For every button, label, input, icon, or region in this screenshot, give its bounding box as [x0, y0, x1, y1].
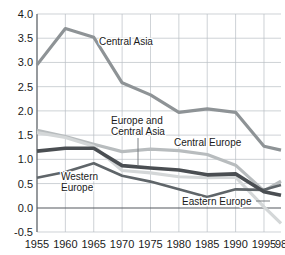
y-axis-tick-label: 0.0 [18, 202, 33, 214]
y-axis-tick-label: 0.5 [18, 178, 33, 190]
y-axis-tick-label: 4.0 [18, 8, 33, 20]
y-axis-tick-label: 1.5 [18, 129, 33, 141]
annotation-eastern-europe-text: Eastern Europe [182, 196, 252, 207]
y-axis-tick-label: 1.0 [18, 153, 33, 165]
y-axis-tick-label: 2.0 [18, 105, 33, 117]
annotation-europe-and-central-asia-line2: Central Asia [111, 126, 165, 137]
annotation-europe-and-central-asia: Europe and Central Asia [111, 115, 165, 166]
x-axis-tick-label: 98 [275, 238, 285, 250]
x-axis-tick-labels: 19551960196519701975198019851990199598 [25, 238, 285, 250]
annotation-western-europe-line1: Western [61, 171, 98, 182]
chart-canvas: 4.03.53.02.52.01.51.00.50.0-0.5 19551960… [0, 0, 285, 255]
y-axis-tick-label: 3.5 [18, 32, 33, 44]
annotation-central-europe-text: Central Europe [174, 137, 242, 148]
annotation-central-europe: Central Europe [174, 137, 242, 148]
y-axis-tick-label: 2.5 [18, 81, 33, 93]
x-axis-tick-label: 1995 [252, 238, 276, 250]
annotation-western-europe-line2: Europe [61, 182, 94, 193]
x-axis-tick-label: 1960 [53, 238, 77, 250]
y-axis-tick-label: -0.5 [14, 226, 33, 238]
annotation-europe-and-central-asia-line1: Europe and [111, 115, 163, 126]
y-axis-tick-labels: 4.03.53.02.52.01.51.00.50.0-0.5 [14, 8, 33, 238]
annotation-central-asia: Central Asia [99, 36, 153, 47]
x-axis-tick-label: 1970 [110, 238, 134, 250]
x-axis-tick-label: 1955 [25, 238, 49, 250]
y-axis-tick-label: 3.0 [18, 56, 33, 68]
x-axis-tick-label: 1990 [223, 238, 247, 250]
x-axis-tick-label: 1985 [195, 238, 219, 250]
annotation-western-europe: Western Europe [61, 171, 98, 193]
x-axis-tick-label: 1975 [138, 238, 162, 250]
x-axis-tick-label: 1965 [82, 238, 106, 250]
x-axis-tick-label: 1980 [167, 238, 191, 250]
line-chart: 4.03.53.02.52.01.51.00.50.0-0.5 19551960… [0, 0, 285, 255]
annotation-central-asia-text: Central Asia [99, 36, 153, 47]
